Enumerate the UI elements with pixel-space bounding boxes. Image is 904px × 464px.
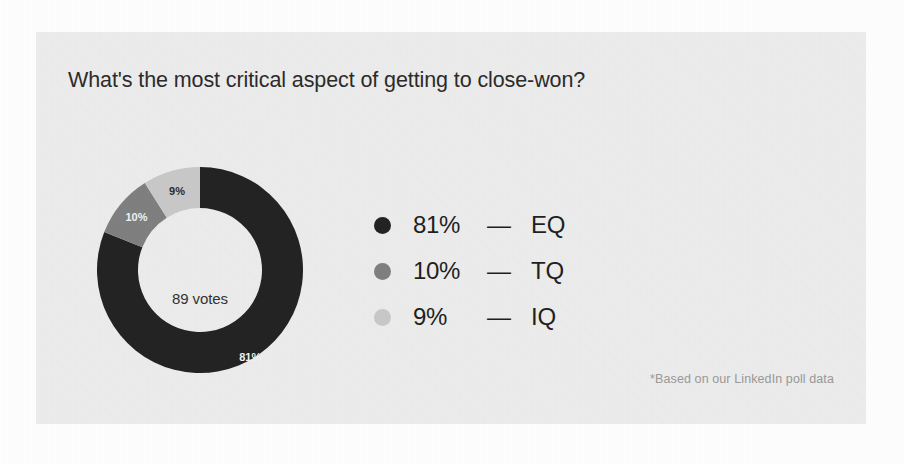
poll-result-card: What's the most critical aspect of getti… (36, 32, 866, 424)
legend-color-dot-icon (374, 217, 391, 234)
legend-dash: — (487, 211, 531, 239)
slide-canvas: What's the most critical aspect of getti… (0, 0, 904, 464)
legend-color-dot-icon (374, 309, 391, 326)
legend-item-eq[interactable]: 81% — EQ (374, 202, 674, 248)
donut-chart-svg: 81%10%9% (97, 167, 303, 373)
donut-slice-label-eq: 81% (239, 351, 261, 363)
page-title: What's the most critical aspect of getti… (68, 68, 585, 93)
legend-percent: 9% (413, 303, 487, 331)
donut-slice-group (97, 167, 303, 373)
donut-chart: 81%10%9% (97, 167, 303, 373)
legend-label: TQ (531, 257, 564, 285)
legend-dash: — (487, 257, 531, 285)
legend-percent: 10% (413, 257, 487, 285)
legend-item-iq[interactable]: 9% — IQ (374, 294, 674, 340)
legend-label: EQ (531, 211, 565, 239)
donut-center-total: 89 votes (97, 290, 303, 307)
legend-color-dot-icon (374, 263, 391, 280)
donut-slice-label-iq: 9% (169, 185, 185, 197)
source-footnote: *Based on our LinkedIn poll data (650, 372, 834, 386)
chart-legend: 81% — EQ 10% — TQ 9% — IQ (374, 202, 674, 340)
legend-item-tq[interactable]: 10% — TQ (374, 248, 674, 294)
donut-slice-label-tq: 10% (125, 211, 147, 223)
legend-label: IQ (531, 303, 556, 331)
legend-dash: — (487, 303, 531, 331)
legend-percent: 81% (413, 211, 487, 239)
